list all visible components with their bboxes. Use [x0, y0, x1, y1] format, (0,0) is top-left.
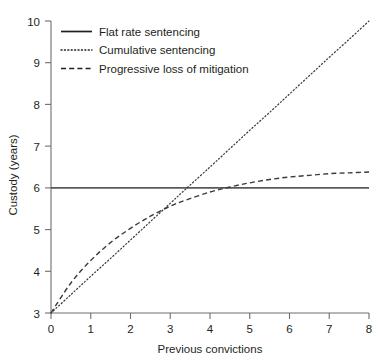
line-chart: 10 9 8 7 6 5 4 3 0 1 2 3 [0, 0, 385, 364]
legend-item-cumulative-sentencing: Cumulative sentencing [61, 44, 215, 56]
legend-label-flat-rate-sentencing: Flat rate sentencing [99, 26, 200, 38]
legend-label-cumulative-sentencing: Cumulative sentencing [99, 44, 215, 56]
chart-figure: 10 9 8 7 6 5 4 3 0 1 2 3 [0, 0, 385, 364]
x-axis-title: Previous convictions [158, 343, 263, 355]
chart-legend: Flat rate sentencing Cumulative sentenci… [61, 26, 249, 75]
legend-label-progressive-loss-of-mitigation: Progressive loss of mitigation [99, 63, 249, 75]
x-tick-label-5: 5 [247, 323, 253, 335]
y-tick-label-10: 10 [27, 16, 40, 28]
x-tick-label-7: 7 [326, 323, 332, 335]
x-tick-label-4: 4 [207, 323, 214, 335]
y-tick-label-4: 4 [34, 266, 41, 278]
x-tick-label-0: 0 [48, 323, 54, 335]
y-axis-title: Custody (years) [7, 134, 19, 215]
x-tick-label-6: 6 [286, 323, 292, 335]
x-tick-label-2: 2 [127, 323, 133, 335]
legend-item-progressive-loss-of-mitigation: Progressive loss of mitigation [61, 63, 249, 75]
y-tick-label-3: 3 [34, 308, 40, 320]
y-tick-label-9: 9 [34, 57, 40, 69]
y-tick-label-8: 8 [34, 99, 40, 111]
y-axis-ticks: 10 9 8 7 6 5 4 3 [27, 16, 51, 320]
y-tick-label-6: 6 [34, 182, 40, 194]
series-progressive-loss-of-mitigation [51, 172, 369, 313]
y-tick-label-5: 5 [34, 224, 40, 236]
x-tick-label-3: 3 [167, 323, 173, 335]
x-tick-label-1: 1 [88, 323, 94, 335]
y-tick-label-7: 7 [34, 141, 40, 153]
x-axis-ticks: 0 1 2 3 4 5 6 7 8 [48, 313, 372, 335]
x-tick-label-8: 8 [366, 323, 372, 335]
legend-item-flat-rate-sentencing: Flat rate sentencing [61, 26, 200, 38]
